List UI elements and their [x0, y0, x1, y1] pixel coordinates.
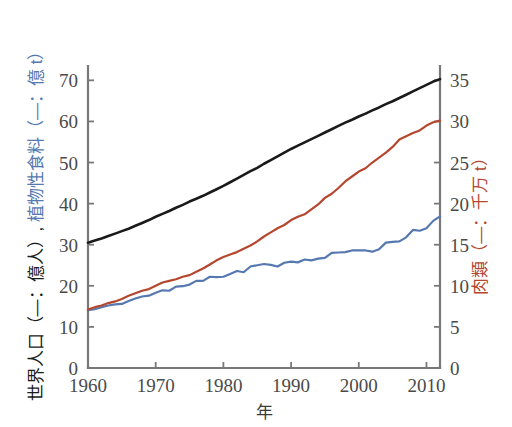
left-tick-label: 40 — [59, 194, 78, 215]
right-tick-label: 35 — [450, 70, 469, 91]
left-tick-label: 50 — [59, 153, 78, 174]
left-tick-label: 70 — [59, 70, 78, 91]
series-line-plant-food — [88, 216, 440, 310]
x-tick-label: 1960 — [69, 375, 107, 396]
x-tick-label: 2000 — [340, 375, 378, 396]
axis-titles: 世界人口（—：億人）, 植物性食料（—：億 t）肉類（—：千万 t）年 — [27, 43, 490, 422]
data-series — [88, 79, 440, 310]
tick-labels: 0102030405060700510152025303519601970198… — [59, 70, 469, 396]
right-tick-label: 5 — [450, 317, 460, 338]
left-tick-label: 20 — [59, 276, 78, 297]
right-axis-title: 肉類（—：千万 t） — [471, 149, 490, 294]
right-tick-label: 15 — [450, 235, 469, 256]
right-tick-label: 10 — [450, 276, 469, 297]
left-axis-title: 世界人口（—：億人）, 植物性食料（—：億 t） — [27, 43, 46, 402]
right-tick-label: 30 — [450, 111, 469, 132]
left-tick-label: 10 — [59, 317, 78, 338]
left-tick-label: 60 — [59, 111, 78, 132]
x-tick-label: 1970 — [137, 375, 175, 396]
x-tick-label: 1980 — [204, 375, 242, 396]
right-tick-label: 0 — [450, 358, 460, 379]
left-tick-label: 30 — [59, 235, 78, 256]
x-axis-title: 年 — [256, 403, 273, 422]
series-line-meat — [88, 121, 440, 310]
axes — [88, 66, 440, 368]
series-line-population — [88, 79, 440, 243]
right-tick-label: 25 — [450, 153, 469, 174]
x-tick-label: 1990 — [272, 375, 310, 396]
x-tick-label: 2010 — [407, 375, 445, 396]
chart-figure: 0102030405060700510152025303519601970198… — [0, 0, 512, 427]
right-tick-label: 20 — [450, 194, 469, 215]
line-chart: 0102030405060700510152025303519601970198… — [0, 0, 512, 427]
